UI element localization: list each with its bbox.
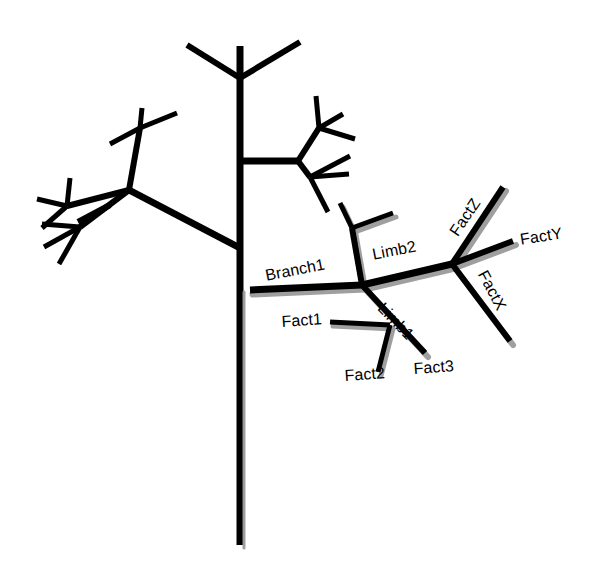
left-upper-tip-c bbox=[140, 113, 177, 128]
right-upper-tip-b bbox=[319, 114, 343, 128]
right-upper-tip-c bbox=[319, 128, 355, 139]
diagram-canvas: Branch1Limb2Limb1Fact1Fact2Fact3FactXFac… bbox=[0, 0, 594, 570]
right-lower-sub bbox=[298, 161, 310, 177]
right-lower-tip-c bbox=[310, 177, 328, 212]
right-upper-tip-a bbox=[316, 96, 319, 128]
branch1-segment bbox=[250, 285, 362, 290]
left-lower-tip-a bbox=[67, 178, 70, 206]
right-lower-tip-b bbox=[310, 174, 349, 177]
left-mid-tip-a bbox=[42, 224, 80, 227]
left-upper-sub bbox=[129, 128, 140, 190]
trunk-top-fork-left bbox=[187, 45, 240, 78]
trunk-top-fork-right bbox=[240, 42, 300, 78]
left-lower-tip-b bbox=[37, 199, 67, 206]
limb2-tip-left bbox=[340, 203, 352, 228]
branch-label-fact3: Fact3 bbox=[413, 358, 455, 377]
branch-label-fact1: Fact1 bbox=[281, 311, 323, 330]
fact1-tip bbox=[330, 322, 390, 325]
left-main-branch bbox=[129, 190, 240, 248]
branch-label-fact2: Fact2 bbox=[344, 365, 386, 384]
tree-diagram-svg bbox=[0, 0, 594, 570]
right-upper-sub bbox=[298, 128, 319, 161]
